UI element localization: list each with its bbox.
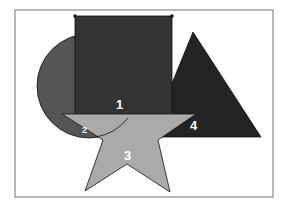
label-triangle: 4 <box>190 118 198 133</box>
shapes-diagram: 1 2 3 4 <box>0 0 288 206</box>
label-circle: 2 <box>82 125 87 135</box>
square-handle-tr[interactable] <box>171 15 174 18</box>
square-shape[interactable] <box>75 16 172 115</box>
label-star: 3 <box>124 148 131 163</box>
label-square: 1 <box>116 97 123 112</box>
square-handle-tl[interactable] <box>74 15 77 18</box>
